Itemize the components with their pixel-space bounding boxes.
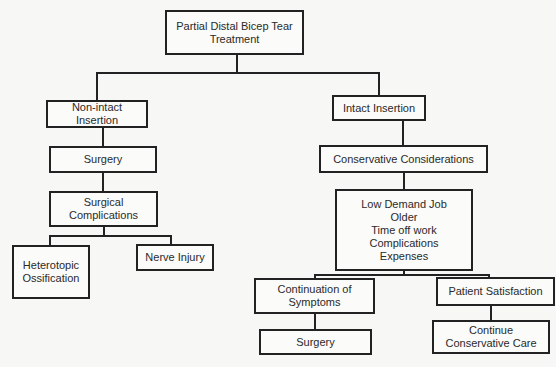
node-label: Non-intact Insertion <box>51 101 143 127</box>
conservative-considerations-node: Conservative Considerations <box>319 145 488 173</box>
continuation-of-symptoms-node: Continuation of Symptoms <box>254 278 375 314</box>
node-label: Nerve Injury <box>145 251 204 264</box>
connector <box>96 72 98 100</box>
connector <box>102 172 104 191</box>
factors-node: Low Demand Job Older Time off work Compl… <box>335 189 473 271</box>
connector <box>402 120 404 145</box>
connector <box>314 313 316 329</box>
connector <box>102 127 104 147</box>
connector <box>236 54 238 74</box>
root-node: Partial Distal Bicep Tear Treatment <box>165 10 304 55</box>
nerve-injury-node: Nerve Injury <box>136 244 214 271</box>
node-label: Low Demand Job Older Time off work Compl… <box>361 198 447 263</box>
non-intact-insertion-node: Non-intact Insertion <box>46 100 148 128</box>
node-label: Surgery <box>296 336 335 349</box>
node-label: Intact Insertion <box>343 102 415 115</box>
node-label: Surgery <box>84 153 123 166</box>
connector <box>96 72 380 74</box>
continue-conservative-care-node: Continue Conservative Care <box>432 320 550 354</box>
connector <box>403 172 405 189</box>
node-label: Continuation of Symptoms <box>278 283 352 309</box>
patient-satisfaction-node: Patient Satisfaction <box>436 277 555 306</box>
surgical-complications-node: Surgical Complications <box>49 191 158 227</box>
connector <box>49 235 51 245</box>
connector <box>490 305 492 320</box>
heterotopic-ossification-node: Heterotopic Ossification <box>12 245 90 299</box>
node-label: Patient Satisfaction <box>448 285 542 298</box>
node-label: Surgical Complications <box>69 196 138 222</box>
root-label: Partial Distal Bicep Tear Treatment <box>176 20 293 46</box>
connector <box>49 235 172 237</box>
connector <box>378 72 380 95</box>
connector <box>170 235 172 244</box>
node-label: Heterotopic Ossification <box>23 259 80 285</box>
left-surgery-node: Surgery <box>49 146 157 173</box>
node-label: Conservative Considerations <box>333 153 474 166</box>
node-label: Continue Conservative Care <box>445 324 536 350</box>
intact-insertion-node: Intact Insertion <box>332 95 426 121</box>
connector <box>314 274 490 276</box>
right-surgery-node: Surgery <box>259 329 372 355</box>
